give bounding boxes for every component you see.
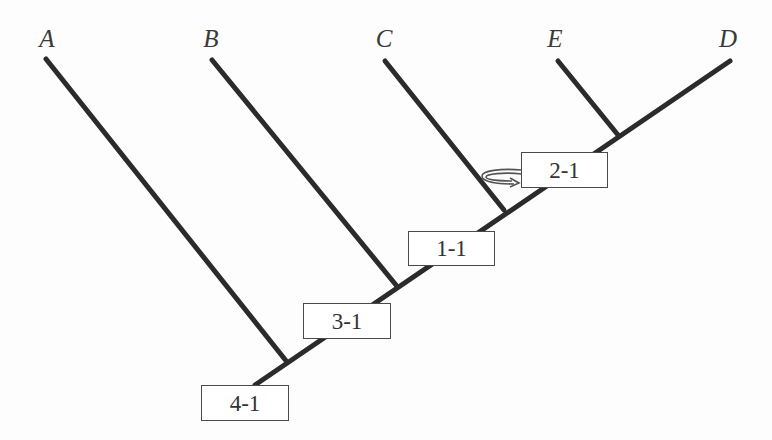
node-label-text: 3-1 [332,310,363,333]
node-label-2-1: 2-1 [521,152,608,188]
branch-B [212,60,396,285]
tip-label-A: A [39,26,54,51]
branch-C [385,61,504,210]
node-label-4-1: 4-1 [201,385,289,421]
tip-label-B: B [203,26,218,51]
curved-arrow-icon [482,169,522,187]
phylogenetic-tree-diagram: A B C E D 1-1 2-1 3-1 4-1 [0,0,772,440]
branch-E [558,61,618,135]
node-label-text: 4-1 [230,392,261,415]
tree-branches [0,0,772,440]
node-label-1-1: 1-1 [408,231,495,266]
node-label-text: 2-1 [549,159,580,182]
tip-label-E: E [547,26,562,51]
node-label-text: 1-1 [436,237,467,260]
tip-label-C: C [376,26,393,51]
tip-label-D: D [719,26,737,51]
node-label-3-1: 3-1 [303,303,391,339]
